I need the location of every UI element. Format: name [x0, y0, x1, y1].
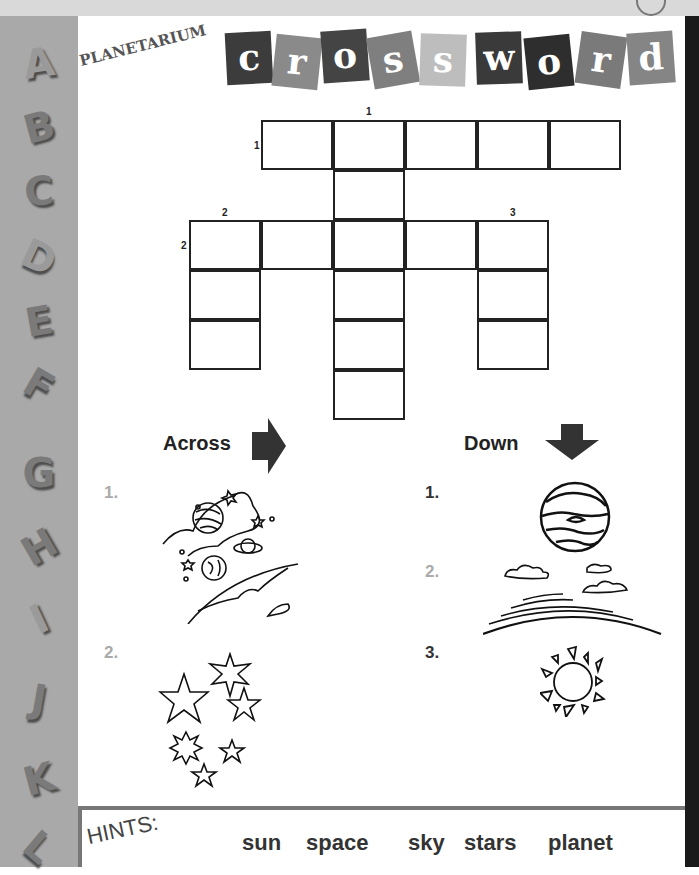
hints-bar: HINTS: sun space sky stars planet: [78, 806, 685, 867]
planet-icon: [538, 480, 612, 554]
title-tile: w: [475, 31, 523, 85]
sidebar-letter: H: [6, 515, 72, 580]
clue-number-across-1: 1: [254, 140, 260, 151]
title-tile: o: [320, 28, 370, 83]
grid-cell[interactable]: [261, 220, 333, 270]
hint-word-sun: sun: [242, 830, 281, 856]
down-clue-3-number: 3.: [425, 643, 439, 663]
space-scene-icon: [158, 486, 300, 624]
grid-cell[interactable]: [333, 270, 405, 320]
title-tile: d: [626, 30, 676, 85]
title-tile: r: [271, 34, 322, 91]
sidebar-letter: J: [10, 672, 67, 726]
sidebar-letter: L: [5, 813, 73, 875]
top-strip: [0, 0, 699, 16]
title-tile: o: [523, 34, 574, 91]
title-tile: s: [366, 30, 420, 89]
right-edge-bar: [685, 16, 699, 867]
alphabet-sidebar: A B C D E F G H I J K L: [0, 16, 78, 867]
grid-cell[interactable]: [333, 320, 405, 370]
hint-word-planet: planet: [548, 830, 613, 856]
grid-cell[interactable]: [477, 120, 549, 170]
sidebar-letter: C: [12, 166, 66, 216]
grid-cell[interactable]: [477, 320, 549, 370]
grid-cell[interactable]: [333, 220, 405, 270]
grid-cell[interactable]: [333, 120, 405, 170]
across-clue-1-number: 1.: [104, 483, 118, 503]
clue-number-down-2: 2: [222, 207, 228, 218]
sidebar-letter: A: [11, 37, 67, 90]
grid-cell[interactable]: [189, 220, 261, 270]
grid-cell[interactable]: [549, 120, 621, 170]
hint-word-space: space: [306, 830, 368, 856]
sidebar-letter: D: [7, 226, 72, 289]
grid-cell[interactable]: [333, 170, 405, 220]
arrow-right-icon: [252, 418, 286, 474]
sidebar-letter: K: [9, 750, 69, 807]
grid-cell[interactable]: [189, 320, 261, 370]
down-clue-2-number: 2.: [425, 562, 439, 582]
hints-title: HINTS:: [85, 810, 161, 850]
across-heading: Across: [163, 432, 231, 455]
sidebar-letter: G: [14, 450, 64, 496]
arrow-down-icon: [545, 424, 599, 460]
stars-icon: [158, 652, 268, 788]
grid-cell[interactable]: [261, 120, 333, 170]
clue-number-down-1: 1: [366, 106, 372, 117]
down-heading: Down: [464, 432, 518, 455]
title-tile: c: [225, 31, 274, 85]
sidebar-letter: E: [10, 294, 67, 348]
grid-cell[interactable]: [405, 120, 477, 170]
sky-icon: [483, 560, 665, 638]
across-clue-2-number: 2.: [104, 643, 118, 663]
sidebar-letter: F: [6, 353, 72, 418]
grid-cell[interactable]: [477, 220, 549, 270]
clue-number-across-2: 2: [181, 240, 187, 251]
title-tile: r: [575, 31, 628, 89]
sun-icon: [540, 645, 606, 717]
clue-number-down-3: 3: [510, 207, 516, 218]
down-clue-1-number: 1.: [425, 483, 439, 503]
grid-cell[interactable]: [405, 220, 477, 270]
grid-cell[interactable]: [477, 270, 549, 320]
hint-word-stars: stars: [464, 830, 517, 856]
title-tile: s: [419, 33, 467, 87]
subtitle-planetarium: PLANETARIUM: [78, 21, 208, 70]
hint-word-sky: sky: [408, 830, 445, 856]
sidebar-letter: B: [9, 98, 69, 155]
grid-cell[interactable]: [333, 370, 405, 420]
sidebar-letter: I: [7, 588, 72, 651]
grid-cell[interactable]: [189, 270, 261, 320]
